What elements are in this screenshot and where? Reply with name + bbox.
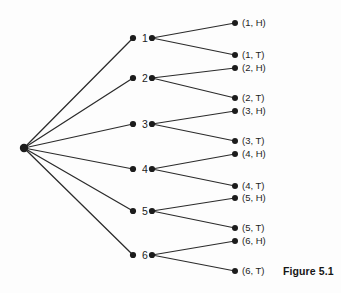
outcome-node-dot [232,138,238,144]
edge-1-to-leaf [152,38,235,55]
die-label-1: 1 [142,33,148,44]
die-node-3-in-dot [130,121,136,127]
die-node-3-out-dot [149,121,155,127]
die-node-dots [130,35,155,258]
outcome-node-dot [232,20,238,26]
sample-point-label: (5, T) [242,223,265,233]
die-label-3: 3 [142,119,148,130]
die-node-1-in-dot [130,35,136,41]
outcome-node-dots [232,20,238,274]
die-node-6-in-dot [130,252,136,258]
die-node-5-out-dot [149,208,155,214]
outcome-node-dot [232,95,238,101]
outcome-node-dot [232,65,238,71]
tree-graphic [0,0,341,293]
sample-point-label: (4, T) [242,181,265,191]
edge-5-to-leaf [152,211,235,228]
edge-1-to-leaf [152,23,235,38]
die-label-5: 5 [142,206,148,217]
die-node-4-out-dot [149,166,155,172]
edge-6-to-leaf [152,241,235,255]
die-node-1-out-dot [149,35,155,41]
sample-point-label: (4, H) [242,149,266,159]
die-node-6-out-dot [149,252,155,258]
outcome-node-dot [232,183,238,189]
edges-die-to-coin [152,23,235,271]
outcome-node-dot [232,52,238,58]
sample-point-label: (2, H) [242,63,266,73]
die-label-2: 2 [142,73,148,84]
outcome-node-dot [232,195,238,201]
root-node-dot [20,144,28,152]
edge-3-to-leaf [152,124,235,141]
outcome-node-dot [232,238,238,244]
edge-4-to-leaf [152,169,235,186]
edge-root-to-4 [24,148,133,169]
sample-point-label: (5, H) [242,193,266,203]
die-node-5-in-dot [130,208,136,214]
sample-point-label: (6, T) [242,266,265,276]
sample-point-label: (1, H) [242,18,266,28]
sample-point-label: (1, T) [242,50,265,60]
edge-6-to-leaf [152,255,235,271]
edge-2-to-leaf [152,68,235,78]
outcome-node-dot [232,268,238,274]
die-label-4: 4 [142,164,148,175]
outcome-node-dot [232,108,238,114]
sample-point-label: (3, H) [242,106,266,116]
die-node-2-out-dot [149,75,155,81]
edge-root-to-3 [24,124,133,148]
edge-3-to-leaf [152,111,235,124]
figure-caption: Figure 5.1 [283,266,334,277]
outcome-node-dot [232,151,238,157]
edge-root-to-1 [24,38,133,148]
die-node-4-in-dot [130,166,136,172]
figure-tree-diagram: 123456 (1, H)(1, T)(2, H)(2, T)(3, H)(3,… [0,0,341,293]
edge-2-to-leaf [152,78,235,98]
root-node-dot [20,144,28,152]
edge-root-to-2 [24,78,133,148]
outcome-node-dot [232,225,238,231]
die-label-6: 6 [142,250,148,261]
edges-root-to-die [24,38,133,255]
sample-point-label: (6, H) [242,236,266,246]
edge-5-to-leaf [152,198,235,211]
die-node-2-in-dot [130,75,136,81]
sample-point-label: (3, T) [242,136,265,146]
sample-point-label: (2, T) [242,93,265,103]
edge-4-to-leaf [152,154,235,169]
